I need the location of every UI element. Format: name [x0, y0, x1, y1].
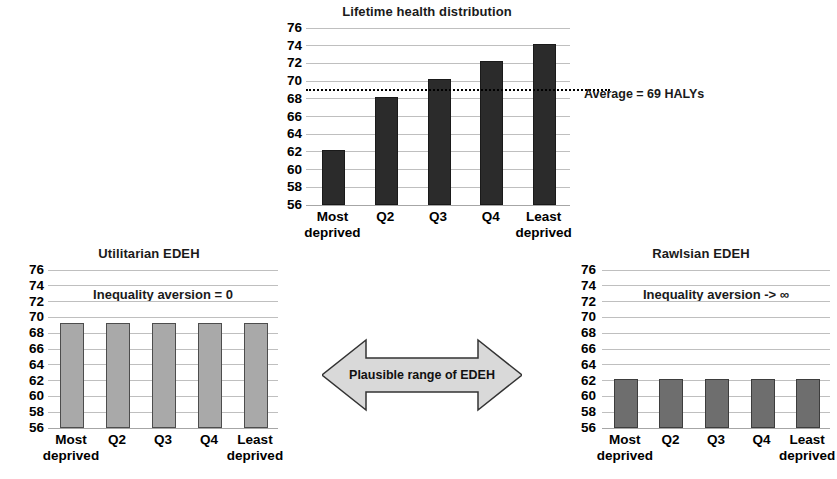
- y-axis-lifetime-health-distribution: 7674727068666462605856: [272, 28, 302, 205]
- x-tick-label: Leastdeprived: [779, 432, 835, 464]
- y-tick-label: 60: [581, 390, 596, 404]
- y-tick-label: 60: [29, 390, 44, 404]
- x-tick-label: Q2: [661, 432, 679, 448]
- bar: [428, 79, 451, 205]
- y-axis-rawlsian-edeh: 7674727068666462605856: [566, 270, 596, 428]
- chart-title-utilitarian-edeh: Utilitarian EDEH: [14, 246, 284, 261]
- y-tick-label: 70: [29, 311, 44, 325]
- plot-area-lifetime-health-distribution: 7674727068666462605856: [272, 28, 582, 205]
- gridline: [48, 270, 278, 271]
- bar: [614, 379, 638, 428]
- gridline: [602, 270, 830, 271]
- y-tick-label: 70: [581, 311, 596, 325]
- gridline: [602, 349, 830, 350]
- y-tick-label: 72: [581, 295, 596, 309]
- x-tick-label: Q4: [200, 432, 218, 448]
- x-tick-label: Mostdeprived: [43, 432, 99, 464]
- plot-canvas-lifetime-health-distribution: [306, 28, 570, 205]
- x-axis-utilitarian-edeh: MostdeprivedQ2Q3Q4Leastdeprived: [48, 432, 278, 466]
- y-tick-label: 56: [581, 421, 596, 435]
- bar: [533, 44, 556, 205]
- x-tick-label: Q2: [108, 432, 126, 448]
- chart-title-lifetime-health-distribution: Lifetime health distribution: [272, 4, 582, 19]
- bar: [60, 323, 84, 428]
- bar: [480, 61, 503, 205]
- x-axis-rawlsian-edeh: MostdeprivedQ2Q3Q4Leastdeprived: [602, 432, 830, 466]
- x-tick-label: Q4: [753, 432, 771, 448]
- y-tick-label: 72: [29, 295, 44, 309]
- chart-title-rawlsian-edeh: Rawlsian EDEH: [566, 246, 836, 261]
- average-line: [306, 89, 610, 91]
- bar: [152, 323, 176, 428]
- x-tick-label: Mostdeprived: [597, 432, 653, 464]
- gridline: [602, 301, 830, 302]
- plot-area-rawlsian-edeh: 7674727068666462605856 Inequality aversi…: [566, 270, 836, 428]
- y-tick-label: 76: [581, 263, 596, 277]
- y-tick-label: 64: [29, 358, 44, 372]
- y-tick-label: 66: [287, 110, 302, 124]
- y-tick-label: 68: [287, 92, 302, 106]
- y-tick-label: 58: [29, 405, 44, 419]
- y-tick-label: 68: [581, 326, 596, 340]
- y-tick-label: 66: [29, 342, 44, 356]
- y-tick-label: 74: [287, 39, 302, 53]
- x-tick-label: Q4: [482, 209, 500, 225]
- y-tick-label: 56: [29, 421, 44, 435]
- bar: [322, 150, 345, 205]
- y-tick-label: 64: [287, 127, 302, 141]
- chart-rawlsian-edeh: Rawlsian EDEH 7674727068666462605856 Ine…: [566, 246, 836, 474]
- gridline: [602, 317, 830, 318]
- y-tick-label: 72: [287, 57, 302, 71]
- gridline: [48, 285, 278, 286]
- gridline: [602, 364, 830, 365]
- gridline: [306, 63, 570, 64]
- bar: [375, 97, 398, 205]
- y-tick-label: 76: [29, 263, 44, 277]
- y-tick-label: 60: [287, 163, 302, 177]
- x-tick-label: Q2: [376, 209, 394, 225]
- bar: [659, 379, 683, 428]
- plausible-range-arrow: Plausible range of EDEH: [322, 336, 522, 414]
- average-caption: Average = 69 HALYs: [584, 87, 704, 101]
- bar: [198, 323, 222, 428]
- x-tick-label: Q3: [429, 209, 447, 225]
- x-tick-label: Leastdeprived: [515, 209, 571, 241]
- gridline: [306, 45, 570, 46]
- plot-canvas-rawlsian-edeh: Inequality aversion -> ∞: [602, 270, 830, 428]
- y-tick-label: 58: [581, 405, 596, 419]
- y-tick-label: 64: [581, 358, 596, 372]
- gridline: [602, 285, 830, 286]
- plausible-range-arrow-label: Plausible range of EDEH: [322, 368, 522, 382]
- x-tick-label: Q3: [154, 432, 172, 448]
- y-tick-label: 62: [581, 374, 596, 388]
- chart-utilitarian-edeh: Utilitarian EDEH 7674727068666462605856 …: [14, 246, 284, 474]
- gridline: [48, 301, 278, 302]
- y-tick-label: 62: [287, 145, 302, 159]
- gridline: [306, 28, 570, 29]
- y-axis-utilitarian-edeh: 7674727068666462605856: [14, 270, 44, 428]
- bar: [796, 379, 820, 428]
- inequality-aversion-note-utilitarian: Inequality aversion = 0: [90, 287, 236, 302]
- plot-canvas-utilitarian-edeh: Inequality aversion = 0: [48, 270, 278, 428]
- y-tick-label: 76: [287, 21, 302, 35]
- y-tick-label: 74: [581, 279, 596, 293]
- gridline: [48, 317, 278, 318]
- bar: [244, 323, 268, 428]
- y-tick-label: 66: [581, 342, 596, 356]
- x-axis-lifetime-health-distribution: MostdeprivedQ2Q3Q4Leastdeprived: [306, 209, 570, 243]
- bar: [751, 379, 775, 428]
- y-tick-label: 56: [287, 198, 302, 212]
- y-tick-label: 58: [287, 181, 302, 195]
- x-tick-label: Q3: [707, 432, 725, 448]
- bar: [106, 323, 130, 428]
- y-tick-label: 74: [29, 279, 44, 293]
- chart-lifetime-health-distribution: Lifetime health distribution 76747270686…: [272, 4, 582, 236]
- inequality-aversion-note-rawlsian: Inequality aversion -> ∞: [640, 287, 792, 302]
- gridline: [602, 333, 830, 334]
- bar: [705, 379, 729, 428]
- x-tick-label: Mostdeprived: [304, 209, 360, 241]
- y-tick-label: 70: [287, 74, 302, 88]
- plot-area-utilitarian-edeh: 7674727068666462605856 Inequality aversi…: [14, 270, 284, 428]
- y-tick-label: 62: [29, 374, 44, 388]
- x-tick-label: Leastdeprived: [227, 432, 283, 464]
